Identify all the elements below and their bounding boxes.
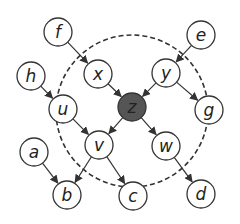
node-w: w [152, 132, 180, 160]
edge-z-to-v [109, 118, 123, 134]
graph-canvas: fehxyuzgvwabcd [0, 0, 240, 224]
node-y: y [152, 59, 180, 87]
node-label: e [196, 25, 206, 45]
node-label: h [26, 66, 37, 86]
node-label: u [58, 99, 69, 119]
node-label: a [29, 142, 39, 162]
edge-y-to-g [177, 82, 198, 100]
edge-e-to-y [176, 45, 191, 62]
node-z: z [118, 93, 146, 121]
node-f: f [44, 18, 72, 46]
node-x: x [84, 60, 112, 88]
edge-z-to-w [141, 118, 156, 135]
node-label: g [204, 100, 215, 120]
node-label: y [160, 63, 172, 83]
node-e: e [187, 21, 215, 49]
node-label: c [128, 186, 138, 206]
edge-u-to-v [73, 119, 88, 134]
edge-v-to-c [107, 157, 125, 184]
node-label: b [62, 185, 73, 205]
node-label: d [196, 184, 207, 204]
node-d: d [187, 180, 215, 208]
node-label: z [127, 97, 138, 117]
graph-diagram: fehxyuzgvwabcd [0, 0, 240, 224]
node-v: v [85, 131, 113, 159]
node-b: b [53, 181, 81, 209]
edge-f-to-x [68, 42, 88, 63]
node-c: c [119, 182, 147, 210]
node-a: a [20, 138, 48, 166]
edge-a-to-b [43, 163, 58, 183]
edge-y-to-z [143, 83, 156, 96]
node-h: h [17, 62, 45, 90]
node-label: v [94, 135, 105, 155]
edge-w-to-d [174, 157, 192, 182]
edge-h-to-u [41, 86, 53, 98]
node-u: u [49, 95, 77, 123]
edge-v-to-b [75, 157, 91, 183]
edge-x-to-z [108, 84, 121, 97]
node-label: w [159, 136, 173, 156]
node-g: g [195, 96, 223, 124]
node-label: x [92, 64, 104, 84]
